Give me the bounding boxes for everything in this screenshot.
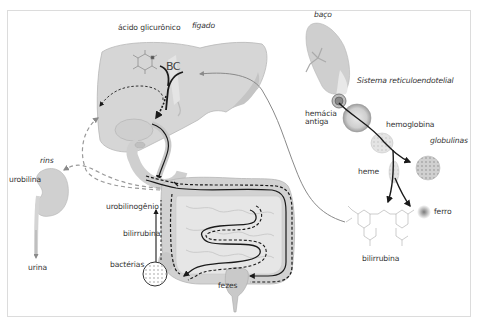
spleen	[306, 23, 350, 96]
bilirubin-molecule-icon	[346, 206, 414, 246]
label-figado: fígado	[192, 22, 215, 30]
label-ferro: ferro	[434, 208, 451, 216]
label-baco: baço	[314, 11, 332, 19]
label-globulinas: globulinas	[430, 137, 468, 145]
label-acido-glicuronico: ácido glicurônico	[118, 24, 181, 32]
globulins-molecule-icon	[416, 156, 440, 180]
label-urobilinogenio: urobilinogênio	[106, 203, 159, 211]
label-fezes: fezes	[218, 282, 237, 290]
label-rins: rins	[40, 157, 54, 165]
label-urobilina: urobilina	[9, 176, 41, 184]
label-heme: heme	[358, 168, 379, 176]
label-bilirrubina-molecule: bilirrubina	[362, 255, 399, 263]
label-urina: urina	[28, 264, 47, 272]
label-bc: BC	[166, 61, 180, 72]
label-hemoglobina: hemoglobina	[386, 121, 434, 129]
liver	[97, 42, 267, 152]
label-bacterias: bactérias	[110, 261, 144, 269]
label-bilirrubina-intestine: bilirrubina	[123, 230, 160, 238]
label-sistema-reticuloendotelial: Sistema reticuloendotelial	[357, 77, 454, 85]
bilirubin-metabolism-diagram	[0, 0, 480, 330]
iron-icon	[417, 205, 431, 219]
label-hemacia-antiga: hemácia antiga	[305, 110, 337, 126]
bacteria-icon	[143, 262, 167, 286]
